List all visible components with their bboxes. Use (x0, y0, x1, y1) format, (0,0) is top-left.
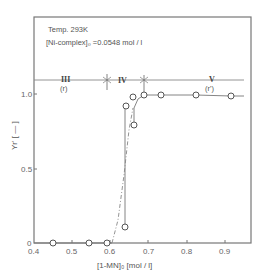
x-axis: 0.4 0.5 0.6 0.7 0.8 0.9 [1-MN]₀ [mol / l… (28, 240, 231, 270)
x-tick-label: 0.5 (66, 247, 78, 256)
y-tick-label: 1.0 (21, 90, 33, 99)
phase-label-V: V (209, 75, 215, 84)
y-axis-label: Yr' [ — ] (10, 121, 19, 150)
data-point (228, 93, 234, 99)
x-tick-label: 0.4 (28, 247, 40, 256)
x-tick-label: 0.7 (143, 247, 155, 256)
x-tick-label: 0.8 (181, 247, 193, 256)
data-point (141, 92, 147, 98)
y-tick-label: 0.5 (21, 165, 33, 174)
data-point (193, 92, 199, 98)
concentration-annotation: [Ni-complex]₀ =0.0548 mol / l (46, 38, 143, 47)
temp-annotation: Temp. 293K (48, 25, 88, 34)
data-point (131, 122, 137, 128)
data-point (104, 240, 110, 246)
x-axis-label: [1-MN]₀ [mol / l] (97, 261, 152, 270)
data-point (86, 240, 92, 246)
dashed-fit-curve (112, 108, 133, 243)
plot-frame (34, 17, 251, 243)
data-point (130, 94, 136, 100)
data-points (50, 92, 234, 246)
data-point (122, 224, 128, 230)
phase-label-IV: IV (118, 76, 127, 85)
y-axis: 1.0 0.5 0 Yr' [ — ] (10, 90, 37, 248)
phase-label-III: III (61, 75, 70, 84)
data-point (50, 240, 56, 246)
phase-sub-r: (r) (60, 84, 68, 93)
x-tick-label: 0.6 (104, 247, 116, 256)
solid-curve-plateau (134, 95, 244, 125)
data-point (158, 92, 164, 98)
phase-sub-r-prime: (r') (205, 84, 214, 93)
phase-line: III (r) IV V (r') (34, 74, 244, 93)
data-point (123, 103, 129, 109)
chart: Temp. 293K [Ni-complex]₀ =0.0548 mol / l… (0, 0, 263, 278)
x-tick-label: 0.9 (219, 247, 231, 256)
